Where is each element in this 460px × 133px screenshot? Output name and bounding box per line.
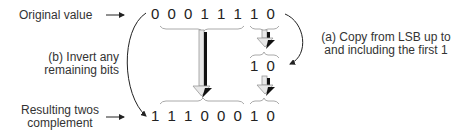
copy-curve-arrow xyxy=(285,14,303,64)
copied-bits: 1 0 xyxy=(246,57,279,74)
bit: 1 xyxy=(197,5,214,22)
invert-curve-arrow xyxy=(127,13,146,116)
result-label: Resulting twos complement xyxy=(17,104,103,130)
result-bits: 1 1 1 0 0 0 1 0 xyxy=(147,107,279,124)
bit: 1 xyxy=(213,5,230,22)
bit: 0 xyxy=(263,57,280,74)
step-b-label: (b) Invert any remaining bits xyxy=(40,51,119,77)
bit: 1 xyxy=(246,57,263,74)
bit: 0 xyxy=(263,107,280,124)
copy-down-arrow-2 xyxy=(257,76,275,96)
original-bits: 0 0 0 1 1 1 1 0 xyxy=(147,5,279,22)
bit: 0 xyxy=(197,107,214,124)
bit: 0 xyxy=(147,5,164,22)
bit: 0 xyxy=(230,107,247,124)
step-a-label: (a) Copy from LSB up to and including th… xyxy=(316,31,456,57)
step-a-line2: and including the first 1 xyxy=(316,44,456,57)
bit: 1 xyxy=(246,5,263,22)
result-label-line2: complement xyxy=(17,117,103,130)
bit: 1 xyxy=(147,107,164,124)
bit: 1 xyxy=(180,107,197,124)
invert-down-arrow xyxy=(193,30,212,98)
bit: 1 xyxy=(246,107,263,124)
original-value-label: Original value xyxy=(19,9,92,22)
bit: 1 xyxy=(230,5,247,22)
copy-down-arrow-1 xyxy=(257,30,275,49)
invert-result-brace xyxy=(160,98,244,104)
bit: 0 xyxy=(180,5,197,22)
bit: 1 xyxy=(164,107,181,124)
bit: 0 xyxy=(213,107,230,124)
bit: 0 xyxy=(263,5,280,22)
bit: 0 xyxy=(164,5,181,22)
copy-result-brace xyxy=(250,98,279,104)
step-b-line2: remaining bits xyxy=(40,64,119,77)
